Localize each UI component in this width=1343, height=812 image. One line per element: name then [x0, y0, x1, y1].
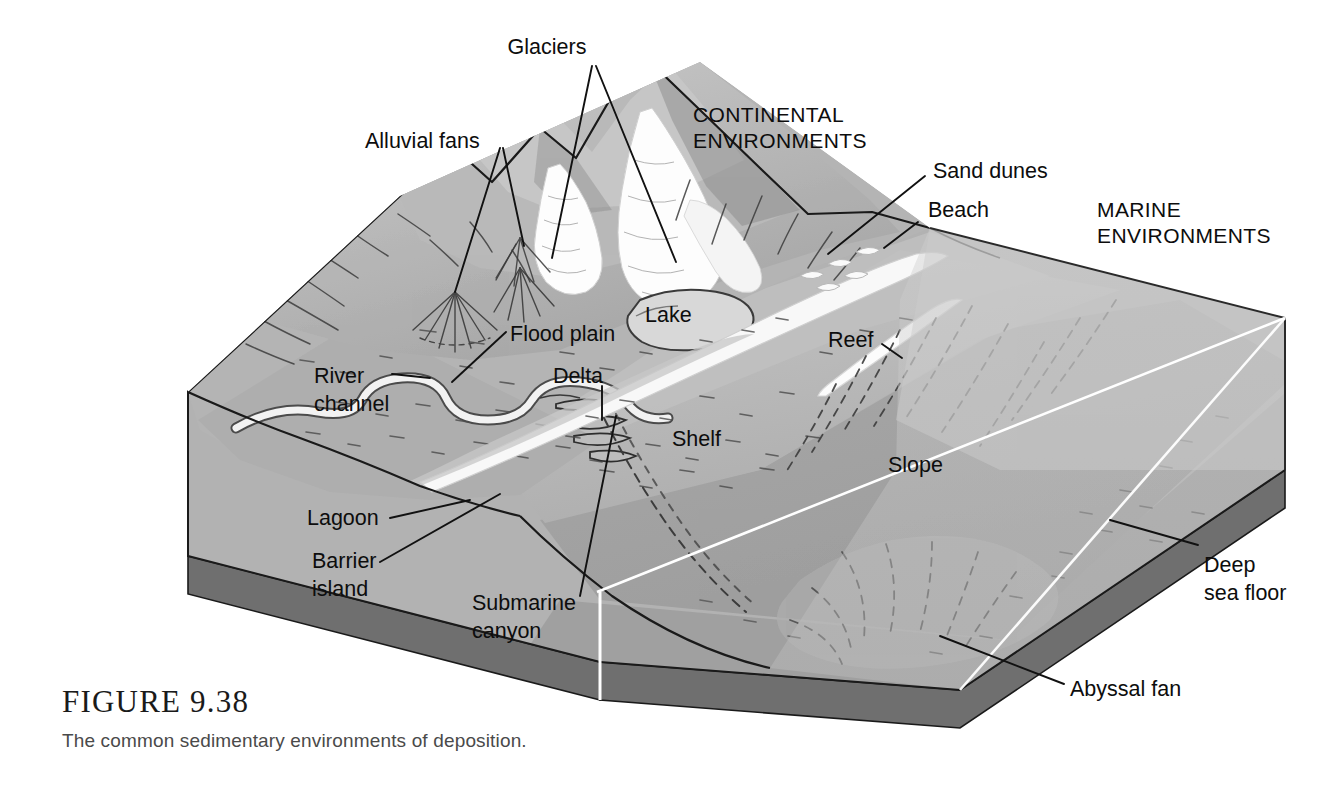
label-barrier-island-line1: Barrier: [312, 549, 377, 573]
label-abyssal-fan: Abyssal fan: [1070, 677, 1181, 701]
label-marine-env-line1: MARINE: [1097, 198, 1181, 221]
figure-number: FIGURE 9.38: [62, 684, 702, 720]
label-shelf: Shelf: [672, 427, 721, 451]
label-flood-plain: Flood plain: [510, 322, 615, 346]
label-slope: Slope: [888, 453, 943, 477]
label-deep-sea-floor-line1: Deep: [1204, 553, 1255, 577]
label-deep-sea-floor-line2: sea floor: [1204, 581, 1286, 605]
label-river-channel-line1: River: [314, 364, 364, 388]
figure-caption-block: FIGURE 9.38 The common sedimentary envir…: [62, 684, 702, 752]
label-submarine-canyon-line1: Submarine: [472, 591, 576, 615]
label-marine-env-line2: ENVIRONMENTS: [1097, 224, 1271, 247]
label-river-channel-line2: channel: [314, 392, 389, 416]
label-submarine-canyon-line2: canyon: [472, 619, 541, 643]
label-lagoon: Lagoon: [307, 506, 379, 530]
label-continental-env-line1: CONTINENTAL: [693, 103, 844, 126]
label-reef: Reef: [828, 328, 873, 352]
label-glaciers: Glaciers: [508, 35, 587, 59]
figure-caption-text: The common sedimentary environments of d…: [62, 730, 702, 752]
label-lake: Lake: [645, 303, 692, 327]
label-delta: Delta: [553, 364, 603, 388]
label-continental-env-line2: ENVIRONMENTS: [693, 129, 867, 152]
label-barrier-island-line2: island: [312, 577, 368, 601]
figure-root: Glaciers Alluvial fans CONTINENTAL ENVIR…: [0, 0, 1343, 812]
label-beach: Beach: [928, 198, 989, 222]
label-sand-dunes: Sand dunes: [933, 159, 1048, 183]
label-alluvial-fans: Alluvial fans: [365, 129, 480, 153]
